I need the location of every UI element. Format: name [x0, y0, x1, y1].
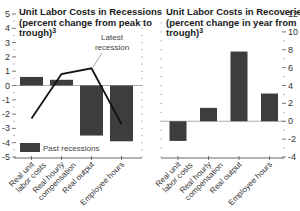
- y-tick-label: -2: [2, 109, 10, 119]
- y-tick-label: -2: [288, 134, 296, 144]
- chart-canvas: 543210-1-2-3-4-5Real unitlabor costsReal…: [0, 0, 300, 211]
- recessions-chart: 543210-1-2-3-4-5Real unitlabor costsReal…: [2, 6, 162, 207]
- y-tick-label: -5: [2, 152, 10, 162]
- latest-recession-annotation: Latestrecession: [95, 33, 129, 52]
- y-tick-label: 10: [288, 27, 298, 37]
- y-tick-label: 1: [5, 66, 10, 76]
- y-tick-label: 3: [5, 38, 10, 48]
- bar: [110, 86, 133, 142]
- y-tick-label: 4: [288, 81, 293, 91]
- bar: [200, 108, 217, 121]
- y-tick-label: 2: [5, 52, 10, 62]
- y-tick-label: 5: [5, 9, 10, 19]
- bar: [170, 121, 187, 141]
- chart-title: Unit Labor Costs in Recoveries(percent c…: [166, 6, 300, 38]
- y-tick-label: 8: [288, 45, 293, 55]
- latest-recession-line: [32, 68, 122, 124]
- y-tick-label: -4: [2, 138, 10, 148]
- y-tick-label: -4: [288, 152, 296, 162]
- y-tick-label: 0: [5, 81, 10, 91]
- y-tick-label: 6: [288, 63, 293, 73]
- legend-label: Past recessions: [43, 144, 99, 153]
- y-tick-label: 2: [288, 98, 293, 108]
- bar: [80, 86, 103, 136]
- y-tick-label: 0: [288, 116, 293, 126]
- chart-title: Unit Labor Costs in Recessions(percent c…: [19, 6, 162, 38]
- legend-swatch: [20, 143, 40, 152]
- annotation-leader-line: [93, 53, 102, 67]
- y-tick-label: 4: [5, 23, 10, 33]
- bar: [20, 77, 43, 86]
- bar: [231, 52, 248, 122]
- recoveries-chart: 121086420-2-4Real unitlabor costsReal ho…: [154, 6, 300, 207]
- bar: [261, 94, 278, 122]
- y-tick-label: -3: [2, 123, 10, 133]
- y-tick-label: -1: [2, 95, 10, 105]
